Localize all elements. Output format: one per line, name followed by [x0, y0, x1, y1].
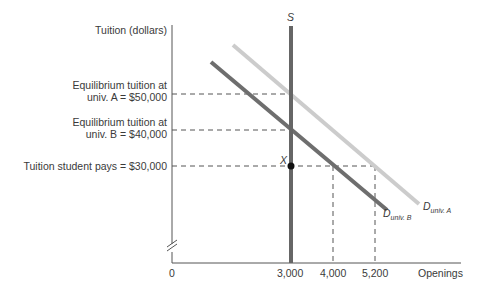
demand-univ-b-sub: univ. B	[391, 214, 412, 221]
price-label-univ-a-line2: univ. A = $50,000	[72, 91, 167, 103]
price-label-univ-b-line2: univ. B = $40,000	[72, 128, 167, 140]
x-tick-5200: 5,200	[362, 267, 388, 279]
price-label-univ-b-line1: Equilibrium tuition at	[72, 116, 167, 128]
demand-univ-b-label: Duniv. B	[383, 207, 411, 221]
point-x-label: X	[280, 154, 287, 166]
x-axis-label: Openings	[418, 267, 463, 279]
demand-univ-a-sub: univ. A	[431, 207, 452, 214]
price-label-univ-a-line1: Equilibrium tuition at	[72, 79, 167, 91]
demand-curve-univ-a	[233, 45, 419, 204]
demand-curve-univ-b	[211, 62, 387, 210]
supply-label: S	[287, 11, 294, 23]
y-axis-label: Tuition (dollars)	[95, 24, 167, 36]
price-label-univ-a: Equilibrium tuition at univ. A = $50,000	[72, 79, 167, 103]
point-x-marker	[288, 163, 295, 170]
x-tick-3000: 3,000	[277, 267, 303, 279]
price-label-univ-b: Equilibrium tuition at univ. B = $40,000	[72, 116, 167, 140]
tuition-supply-demand-diagram: Tuition (dollars) Equilibrium tuition at…	[0, 0, 481, 294]
price-label-student-pays: Tuition student pays = $30,000	[23, 160, 167, 172]
origin-label: 0	[169, 267, 175, 279]
demand-univ-a-label: Duniv. A	[423, 200, 451, 214]
demand-univ-a-main: D	[423, 200, 431, 212]
diagram-canvas	[0, 0, 481, 294]
x-tick-4000: 4,000	[320, 267, 346, 279]
demand-univ-b-main: D	[383, 207, 391, 219]
